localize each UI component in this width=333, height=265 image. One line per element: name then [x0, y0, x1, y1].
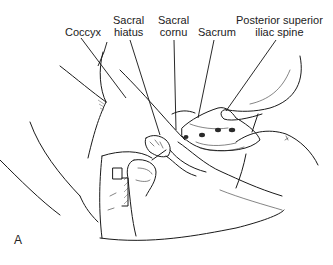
panel-letter: A: [14, 233, 22, 247]
sacrum-shape: [172, 108, 260, 151]
label-sacral-hiatus-line1: Sacral: [113, 14, 144, 26]
right-flank-outline: [221, 56, 301, 132]
label-sacrum: Sacrum: [198, 26, 236, 38]
label-posterior-superior-iliac-spine: Posterior superior iliac spine: [236, 14, 323, 38]
label-sacral-cornu-line2: cornu: [158, 26, 189, 38]
operator-left-hand-with-needle: [100, 150, 166, 238]
label-psis-line1: Posterior superior: [236, 14, 323, 26]
operator-right-hand: [100, 131, 318, 240]
label-coccyx-text: Coccyx: [65, 26, 101, 38]
label-psis-line2: iliac spine: [236, 26, 323, 38]
label-sacral-cornu: Sacral cornu: [158, 14, 189, 38]
line-drawing-caudal-block: [0, 0, 333, 265]
label-sacral-cornu-line1: Sacral: [158, 14, 189, 26]
label-coccyx: Coccyx: [65, 26, 101, 38]
label-sacrum-text: Sacrum: [198, 26, 236, 38]
label-sacral-hiatus: Sacral hiatus: [113, 14, 144, 38]
anatomical-illustration: Coccyx Sacral hiatus Sacral cornu Sacrum…: [0, 0, 333, 265]
leader-lines: [81, 38, 276, 135]
patient-body-outline: [0, 52, 185, 222]
label-sacral-hiatus-line2: hiatus: [113, 26, 144, 38]
